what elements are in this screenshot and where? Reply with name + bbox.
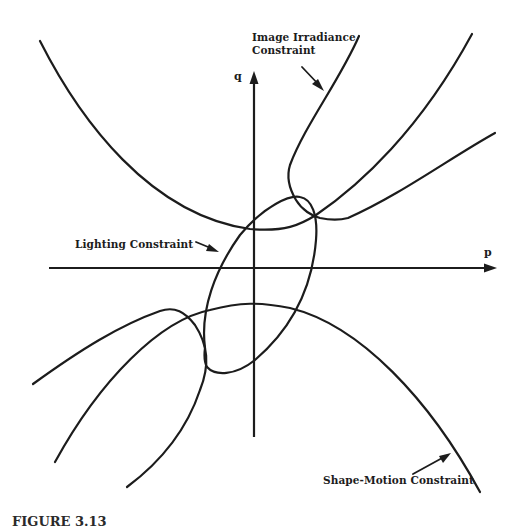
image-irradiance-pointer [302, 67, 324, 91]
image-irradiance-label-line1: Image Irradiance [252, 31, 356, 43]
shape-motion-constraint-label: Shape-Motion Constraint [323, 474, 474, 486]
upper-shape-motion-curve [40, 34, 472, 230]
figure-caption: FIGURE 3.13 [12, 514, 107, 529]
lower-shape-motion-curve [55, 304, 480, 492]
lower-image-irradiance-curve [33, 309, 206, 487]
p-axis-arrow-icon [484, 264, 497, 273]
lighting-pointer [196, 242, 219, 252]
q-axis-arrow-icon [250, 71, 259, 84]
arrow-icon [439, 453, 451, 463]
image-irradiance-label-line2: Constraint [252, 44, 316, 56]
lighting-constraint-label: Lighting Constraint [75, 238, 193, 250]
q-axis [250, 71, 259, 437]
arrow-icon [312, 79, 324, 91]
image-irradiance-curve [288, 36, 495, 220]
p-axis-label: p [484, 246, 492, 259]
p-axis [49, 264, 497, 273]
shape-motion-pointer [413, 453, 451, 474]
arrow-icon [206, 244, 219, 252]
q-axis-label: q [234, 70, 242, 83]
